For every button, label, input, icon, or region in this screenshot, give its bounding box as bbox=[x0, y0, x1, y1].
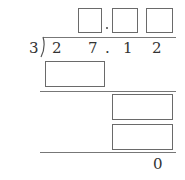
quotient-box-ones[interactable] bbox=[78, 8, 102, 33]
dividend-digit-hundredths: 2 bbox=[152, 41, 162, 56]
final-remainder: 0 bbox=[153, 157, 163, 172]
dividend-decimal-point: . bbox=[105, 41, 110, 56]
dividend-digit-ones: 7 bbox=[88, 41, 98, 56]
dividend-digit-tens: 2 bbox=[52, 41, 62, 56]
quotient-decimal-point bbox=[106, 27, 108, 29]
work-box-remainder[interactable] bbox=[112, 94, 173, 120]
division-bracket-icon bbox=[38, 36, 46, 58]
division-bar bbox=[43, 37, 176, 38]
quotient-box-tenths[interactable] bbox=[112, 8, 138, 33]
subtraction-line-2 bbox=[40, 152, 176, 153]
work-box-second-product[interactable] bbox=[112, 124, 173, 150]
subtraction-line-1 bbox=[40, 91, 176, 92]
quotient-box-hundredths[interactable] bbox=[146, 8, 173, 33]
dividend-digit-tenths: 1 bbox=[123, 41, 133, 56]
work-box-first-product[interactable] bbox=[45, 61, 105, 87]
